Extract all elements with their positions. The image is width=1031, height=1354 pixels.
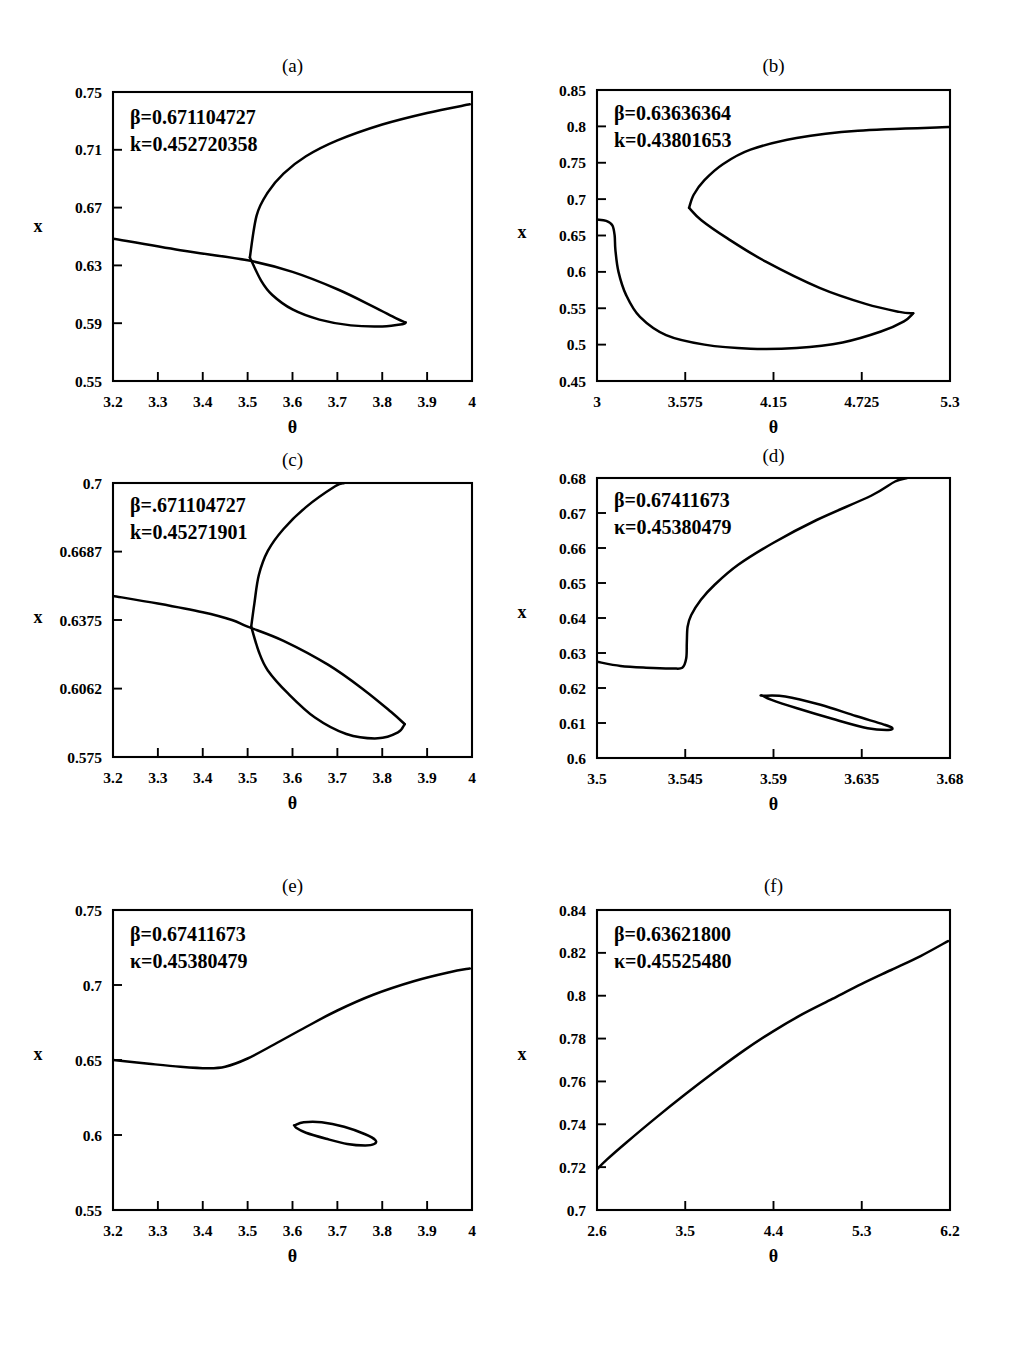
x-axis-tick-label: 3.5 xyxy=(676,1222,696,1239)
y-axis-label: x xyxy=(518,602,527,622)
x-axis-tick-label: 3.3 xyxy=(148,769,168,786)
panel-title: (b) xyxy=(762,55,784,77)
y-axis-tick-label: 0.74 xyxy=(559,1116,586,1133)
y-axis-tick-label: 0.75 xyxy=(75,84,102,101)
y-axis-label: x xyxy=(34,216,43,236)
parameter-annotation: β=0.67411673 xyxy=(130,923,246,946)
x-axis-tick-label: 3.9 xyxy=(417,1222,437,1239)
y-axis-label: x xyxy=(34,607,43,627)
x-axis-tick-label: 4.4 xyxy=(764,1222,784,1239)
y-axis-tick-label: 0.6 xyxy=(567,263,587,280)
y-axis-tick-label: 0.55 xyxy=(559,300,586,317)
y-axis-label: x xyxy=(34,1044,43,1064)
y-axis-tick-label: 0.575 xyxy=(67,749,102,766)
y-axis-label: x xyxy=(518,222,527,242)
panel-title: (e) xyxy=(282,878,303,897)
x-axis-tick-label: 3.575 xyxy=(668,393,703,410)
x-axis-tick-label: 3.6 xyxy=(283,1222,303,1239)
panel-c: (c)0.5750.60620.63750.66870.73.23.33.43.… xyxy=(0,446,500,878)
parameter-annotation: κ=0.45380479 xyxy=(614,516,732,538)
data-curve xyxy=(251,627,404,739)
y-axis-tick-label: 0.6687 xyxy=(59,543,102,560)
y-axis-tick-label: 0.7 xyxy=(567,1202,587,1219)
y-axis-tick-label: 0.71 xyxy=(75,141,102,158)
x-axis-tick-label: 3.8 xyxy=(373,1222,393,1239)
x-axis-tick-label: 5.3 xyxy=(852,1222,872,1239)
parameter-annotation: β=0.63636364 xyxy=(614,102,731,125)
x-axis-tick-label: 3.4 xyxy=(193,769,213,786)
x-axis-tick-label: 3.2 xyxy=(103,393,123,410)
x-axis-tick-label: 4.15 xyxy=(760,393,787,410)
parameter-annotation: β=0.67411673 xyxy=(614,489,730,512)
parameter-annotation: k=0.45271901 xyxy=(130,521,248,543)
x-axis-tick-label: 3.4 xyxy=(193,393,213,410)
data-curve xyxy=(597,219,913,348)
panel-title: (f) xyxy=(764,878,783,897)
x-axis-tick-label: 3.59 xyxy=(760,770,787,787)
data-curve xyxy=(761,695,893,730)
y-axis-tick-label: 0.55 xyxy=(75,373,102,390)
y-axis-tick-label: 0.84 xyxy=(559,902,586,919)
x-axis-tick-label: 3.2 xyxy=(103,1222,123,1239)
y-axis-tick-label: 0.61 xyxy=(559,715,586,732)
y-axis-tick-label: 0.63 xyxy=(75,257,102,274)
x-axis-tick-label: 3.9 xyxy=(417,769,437,786)
y-axis-tick-label: 0.66 xyxy=(559,540,586,557)
parameter-annotation: k=0.43801653 xyxy=(614,129,732,151)
data-curve xyxy=(250,257,406,326)
y-axis-tick-label: 0.67 xyxy=(559,505,586,522)
y-axis-tick-label: 0.7 xyxy=(83,977,103,994)
y-axis-tick-label: 0.6375 xyxy=(59,612,102,629)
x-axis-tick-label: 3.5 xyxy=(238,769,258,786)
parameter-annotation: κ=0.45380479 xyxy=(130,950,248,972)
panel-title: (c) xyxy=(282,449,303,471)
x-axis-tick-label: 3.4 xyxy=(193,1222,213,1239)
parameter-annotation: k=0.452720358 xyxy=(130,133,258,155)
parameter-annotation: β=.671104727 xyxy=(130,494,246,517)
x-axis-label: θ xyxy=(288,417,297,437)
data-curve xyxy=(689,208,913,313)
y-axis-tick-label: 0.85 xyxy=(559,82,586,99)
curve-group xyxy=(113,969,470,1146)
y-axis-tick-label: 0.65 xyxy=(559,575,586,592)
y-axis-tick-label: 0.8 xyxy=(567,987,587,1004)
y-axis-tick-label: 0.75 xyxy=(559,154,586,171)
x-axis-tick-label: 5.3 xyxy=(940,393,960,410)
x-axis-tick-label: 4 xyxy=(468,769,476,786)
parameter-annotation: κ=0.45525480 xyxy=(614,950,732,972)
parameter-annotation: β=0.63621800 xyxy=(614,923,731,946)
x-axis-tick-label: 3.635 xyxy=(844,770,879,787)
x-axis-tick-label: 3.3 xyxy=(148,393,168,410)
x-axis-tick-label: 4 xyxy=(468,393,476,410)
panel-f: (f)0.70.720.740.760.780.80.820.842.63.54… xyxy=(500,878,1011,1354)
panel-e: (e)0.550.60.650.70.753.23.33.43.53.63.73… xyxy=(0,878,500,1354)
data-curve xyxy=(113,239,406,323)
x-axis-tick-label: 2.6 xyxy=(587,1222,607,1239)
panel-title: (a) xyxy=(282,55,303,77)
x-axis-tick-label: 3.5 xyxy=(587,770,607,787)
x-axis-tick-label: 3.545 xyxy=(668,770,703,787)
y-axis-tick-label: 0.62 xyxy=(559,680,586,697)
data-curve xyxy=(250,104,470,257)
y-axis-tick-label: 0.45 xyxy=(559,373,586,390)
data-curve xyxy=(251,483,344,627)
panel-b: (b)0.450.50.550.60.650.70.750.80.8533.57… xyxy=(500,0,1011,446)
y-axis-tick-label: 0.59 xyxy=(75,315,102,332)
y-axis-tick-label: 0.76 xyxy=(559,1073,586,1090)
x-axis-tick-label: 3.7 xyxy=(328,393,348,410)
x-axis-tick-label: 3 xyxy=(593,393,601,410)
y-axis-tick-label: 0.63 xyxy=(559,645,586,662)
x-axis-tick-label: 3.8 xyxy=(373,769,393,786)
x-axis-label: θ xyxy=(769,794,778,814)
x-axis-label: θ xyxy=(288,1246,297,1266)
x-axis-label: θ xyxy=(769,417,778,437)
x-axis-tick-label: 3.8 xyxy=(373,393,393,410)
panel-a: (a)0.550.590.630.670.710.753.23.33.43.53… xyxy=(0,0,500,446)
y-axis-tick-label: 0.65 xyxy=(75,1052,102,1069)
x-axis-tick-label: 3.5 xyxy=(238,1222,258,1239)
curve-group xyxy=(597,941,948,1169)
y-axis-tick-label: 0.6 xyxy=(567,750,587,767)
x-axis-tick-label: 3.7 xyxy=(328,1222,348,1239)
x-axis-tick-label: 4 xyxy=(468,1222,476,1239)
data-curve xyxy=(113,969,470,1069)
